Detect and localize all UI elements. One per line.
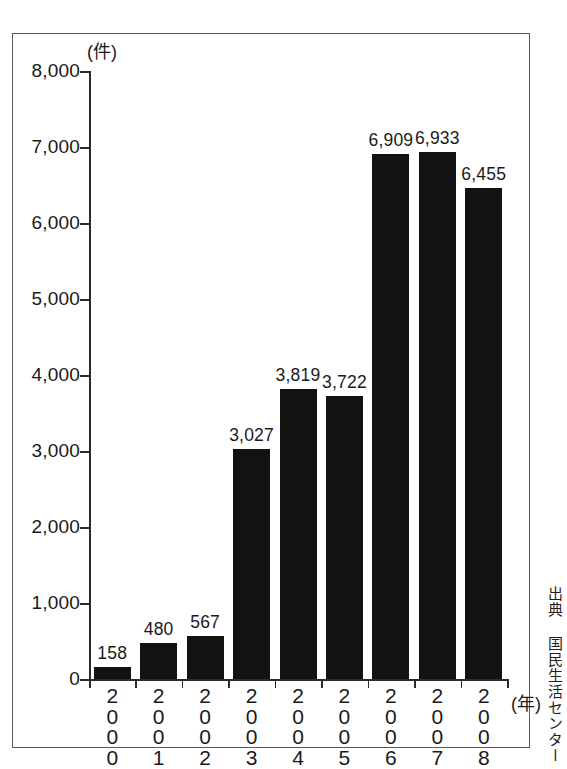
bar-value-label: 6,933	[415, 128, 460, 149]
bar-value-label: 6,909	[368, 130, 413, 151]
x-axis-label: 2004	[280, 686, 317, 768]
x-axis-unit-label: (年)	[511, 689, 541, 715]
y-tick-label: 3,000	[31, 440, 80, 462]
x-tick-mark	[182, 679, 184, 688]
x-axis-label: 2002	[187, 686, 224, 768]
y-tick-label: 1,000	[31, 592, 80, 614]
y-tick-mark	[80, 71, 89, 73]
x-axis-label: 2008	[465, 686, 502, 768]
y-tick-label: 5,000	[31, 288, 80, 310]
bar-value-label: 567	[190, 612, 220, 633]
bar-value-label: 6,455	[461, 164, 506, 185]
bar: 6,933	[419, 152, 456, 679]
x-axis-label: 2006	[372, 686, 409, 768]
x-tick-mark	[135, 679, 137, 688]
y-tick-mark	[80, 527, 89, 529]
y-tick-label: 0	[69, 668, 80, 690]
bar-value-label: 3,722	[322, 372, 367, 393]
y-tick-mark	[80, 299, 89, 301]
bar: 567	[187, 636, 224, 679]
x-tick-mark	[275, 679, 277, 688]
y-tick-mark	[80, 223, 89, 225]
x-tick-mark	[89, 679, 91, 688]
plot-area: 01,0002,0003,0004,0005,0006,0007,0008,00…	[89, 71, 507, 679]
x-axis-label: 2003	[233, 686, 270, 768]
bar-value-label: 480	[144, 619, 174, 640]
y-tick-label: 6,000	[31, 212, 80, 234]
y-tick-label: 2,000	[31, 516, 80, 538]
y-tick-label: 8,000	[31, 60, 80, 82]
x-axis-label: 2007	[419, 686, 456, 768]
x-tick-mark	[321, 679, 323, 688]
x-tick-mark	[414, 679, 416, 688]
bar: 6,909	[372, 154, 409, 679]
y-tick-mark	[80, 603, 89, 605]
x-tick-mark	[461, 679, 463, 688]
y-tick-label: 7,000	[31, 136, 80, 158]
x-axis-label: 2005	[326, 686, 363, 768]
bar: 3,722	[326, 396, 363, 679]
x-tick-mark	[228, 679, 230, 688]
bar-value-label: 3,027	[229, 425, 274, 446]
y-tick-mark	[80, 375, 89, 377]
bar-value-label: 158	[97, 643, 127, 664]
source-credit: 出典 国民生活センター	[543, 586, 563, 764]
x-axis-label: 2001	[140, 686, 177, 768]
bar: 6,455	[465, 188, 502, 679]
bar: 3,819	[280, 389, 317, 679]
y-tick-mark	[80, 679, 89, 681]
bar: 158	[94, 667, 131, 679]
y-axis-unit-label: (件)	[87, 37, 117, 63]
x-tick-mark	[368, 679, 370, 688]
y-tick-mark	[80, 147, 89, 149]
bar-value-label: 3,819	[276, 365, 321, 386]
x-tick-mark	[507, 679, 509, 688]
x-axis-label: 2000	[94, 686, 131, 768]
y-tick-label: 4,000	[31, 364, 80, 386]
bar: 3,027	[233, 449, 270, 679]
figure-frame: (件) (年) 01,0002,0003,0004,0005,0006,0007…	[12, 33, 530, 748]
bar: 480	[140, 643, 177, 679]
y-tick-mark	[80, 451, 89, 453]
x-axis-line	[89, 679, 507, 681]
